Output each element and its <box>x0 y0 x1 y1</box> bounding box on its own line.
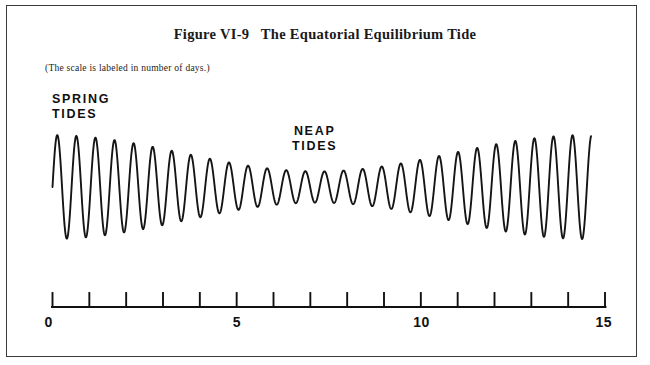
axis-tick-label-5: 5 <box>233 314 241 330</box>
axis-tick-label-10: 10 <box>413 314 430 330</box>
tide-plot <box>0 0 650 365</box>
axis-group <box>52 293 606 307</box>
tide-curve-path <box>53 135 592 239</box>
axis-tick-label-15: 15 <box>596 314 613 330</box>
axis-tick-label-0: 0 <box>45 314 53 330</box>
figure-container: Figure VI-9 The Equatorial Equilibrium T… <box>0 0 650 365</box>
